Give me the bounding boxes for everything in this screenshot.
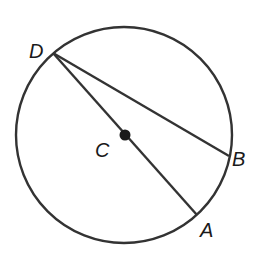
label-D: D: [29, 40, 43, 62]
center-point-C: [120, 130, 131, 141]
circle-diagram: D C B A: [0, 0, 257, 262]
label-A: A: [199, 219, 213, 241]
label-B: B: [232, 148, 245, 170]
chord-DB: [53, 53, 229, 156]
label-C: C: [95, 139, 110, 161]
